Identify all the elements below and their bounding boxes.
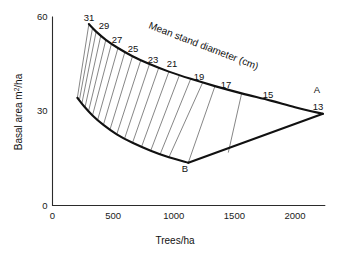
x-axis-tick-labels: 0500100015002000 xyxy=(50,210,306,221)
y-axis-title-post: /ha xyxy=(13,73,24,87)
diameter-value-labels: 31292725232119171513 xyxy=(84,12,324,112)
diameter-fan-line xyxy=(79,28,92,100)
y-tick-label: 30 xyxy=(37,105,48,116)
diameter-fan-line xyxy=(125,64,150,139)
y-axis-tick-labels: 03060 xyxy=(37,11,48,211)
svg-text:Basal area m2/ha: Basal area m2/ha xyxy=(13,73,24,150)
diameter-label: 27 xyxy=(112,34,123,45)
diameter-label: 25 xyxy=(128,43,139,54)
diameter-label: 15 xyxy=(263,89,274,100)
basal-area-chart: 03060 0500100015002000 31292725232119171… xyxy=(0,0,349,253)
y-axis-title: Basal area m2/ha xyxy=(13,73,24,150)
x-axis-title: Trees/ha xyxy=(155,235,195,246)
boundary-curve xyxy=(77,98,188,163)
chart-container: 03060 0500100015002000 31292725232119171… xyxy=(0,0,349,253)
diameter-fan-line xyxy=(151,75,180,150)
endpoint-label: A xyxy=(314,84,321,95)
mean-stand-diameter-annotation: Mean stand diameter (cm) xyxy=(147,20,260,72)
boundary-curve xyxy=(89,24,323,114)
x-tick-label: 1000 xyxy=(163,210,184,221)
diameter-fan-line xyxy=(188,86,215,163)
diameter-label: 17 xyxy=(221,79,232,90)
x-tick-label: 0 xyxy=(50,210,55,221)
diameter-fan-line xyxy=(117,60,141,134)
diameter-label: 31 xyxy=(84,12,95,23)
boundary-curve xyxy=(188,114,323,163)
endpoint-label: B xyxy=(182,163,188,174)
diameter-fan-line xyxy=(110,56,133,129)
diameter-label: 19 xyxy=(194,71,205,82)
y-axis-title-pre: Basal area m xyxy=(13,91,24,150)
diameter-label: 13 xyxy=(313,101,324,112)
diameter-fan-line xyxy=(77,24,89,98)
endpoint-labels: AB xyxy=(182,84,321,174)
x-tick-label: 1500 xyxy=(224,210,245,221)
x-tick-label: 500 xyxy=(105,210,121,221)
diameter-label: 21 xyxy=(167,58,178,69)
x-tick-label: 2000 xyxy=(284,210,305,221)
diameter-label: 29 xyxy=(99,20,110,31)
y-tick-label: 60 xyxy=(37,11,48,22)
y-tick-label: 0 xyxy=(42,200,47,211)
diameter-fan-line xyxy=(142,72,169,147)
diameter-label: 23 xyxy=(148,54,159,65)
diameter-fan-line xyxy=(133,68,159,143)
